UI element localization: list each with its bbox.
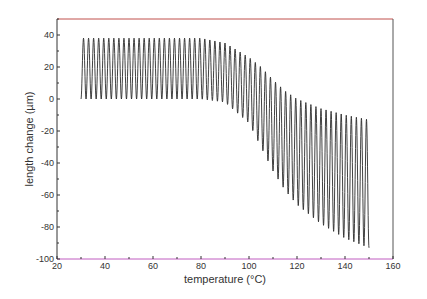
y-tick-label: 0 bbox=[49, 94, 54, 104]
y-tick-label: 40 bbox=[44, 30, 54, 40]
y-axis: -100-80-60-40-2002040 bbox=[36, 19, 60, 264]
x-tick-label: 120 bbox=[289, 261, 304, 271]
y-tick-label: -60 bbox=[41, 190, 54, 200]
y-tick-label: 20 bbox=[44, 62, 54, 72]
plot-area bbox=[81, 38, 369, 248]
y-tick-label: -20 bbox=[41, 126, 54, 136]
x-axis: 20406080100120140160 bbox=[52, 256, 401, 271]
x-tick-label: 140 bbox=[337, 261, 352, 271]
chart: 20406080100120140160 -100-80-60-40-20020… bbox=[0, 0, 427, 299]
y-axis-title: length change (µm) bbox=[23, 92, 35, 187]
x-axis-title: temperature (°C) bbox=[184, 273, 266, 285]
y-tick-label: -80 bbox=[41, 222, 54, 232]
x-tick-label: 60 bbox=[148, 261, 158, 271]
x-tick-label: 80 bbox=[196, 261, 206, 271]
y-tick-label: -100 bbox=[36, 254, 54, 264]
data-series-line bbox=[81, 38, 369, 248]
plot-frame bbox=[57, 19, 393, 259]
x-tick-label: 40 bbox=[100, 261, 110, 271]
y-tick-label: -40 bbox=[41, 158, 54, 168]
x-tick-label: 160 bbox=[385, 261, 400, 271]
x-tick-label: 100 bbox=[241, 261, 256, 271]
